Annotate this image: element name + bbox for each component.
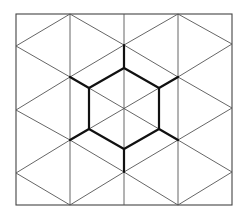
lattice-segment — [70, 14, 124, 45]
lattice-segment — [16, 77, 70, 110]
spoke-segment — [159, 129, 178, 140]
lattice-segment — [16, 14, 70, 46]
spoke-segment — [159, 77, 178, 88]
lattice-segment — [178, 44, 232, 77]
vertical-lines — [70, 14, 178, 205]
lattice-segment — [70, 172, 124, 205]
lattice-segment — [16, 140, 70, 173]
spoke-segment — [70, 129, 89, 140]
lattice-segment — [178, 140, 232, 172]
triangular-lattice-diagram — [0, 0, 244, 212]
lattice-segment — [178, 77, 232, 108]
lattice-segment — [178, 172, 232, 205]
lattice-segment — [16, 110, 70, 140]
lattice-segment — [16, 46, 70, 77]
lattice-segment — [124, 14, 178, 45]
lattice-segment — [124, 172, 178, 205]
lattice-segment — [16, 173, 70, 205]
lattice-segment — [178, 14, 232, 44]
spoke-segment — [70, 77, 89, 88]
lattice-segment — [178, 108, 232, 140]
